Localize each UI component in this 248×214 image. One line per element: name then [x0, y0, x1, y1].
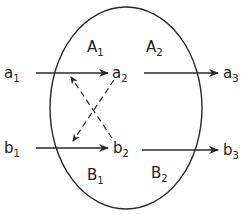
node-b1: b1 [4, 139, 20, 159]
region-label-B1: B1 [87, 166, 104, 186]
node-b2: b2 [113, 139, 129, 159]
diagram-canvas: a1 a2 a3 b1 b2 b3 A1 A2 B1 B2 [0, 0, 248, 214]
region-label-A1: A1 [87, 38, 104, 58]
dashed-arrow-b2-to-a [71, 77, 112, 138]
region-ellipse [50, 7, 202, 209]
node-a3: a3 [223, 64, 239, 84]
node-a2: a2 [112, 64, 128, 84]
region-label-A2: A2 [146, 38, 163, 58]
region-label-B2: B2 [151, 164, 168, 184]
node-b3: b3 [223, 141, 239, 161]
node-a1: a1 [4, 64, 20, 84]
